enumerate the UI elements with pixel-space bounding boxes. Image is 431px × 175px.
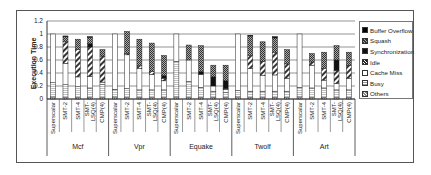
bar-segment-busy	[112, 89, 117, 97]
bar-segment-buffer-overflow	[63, 36, 68, 37]
bar-segment-buffer-overflow	[272, 37, 277, 38]
x-config-label: SMT-4	[136, 101, 142, 119]
bar-segment-cache-miss	[186, 60, 191, 81]
bar-segment-synchronization	[88, 44, 93, 47]
bar-segment-cache-miss	[346, 78, 351, 90]
bar-segment-busy	[285, 91, 290, 98]
x-config-label: Superscalar	[297, 102, 303, 134]
legend-label: Squash	[370, 37, 391, 44]
y-tick-label: 1	[39, 30, 43, 37]
x-config-label: LSQ(4)	[90, 102, 96, 121]
x-config-label: SMT-4	[75, 101, 81, 119]
x-config-label: LSQ(4)	[275, 102, 281, 121]
x-config-label: Superscalar	[173, 102, 179, 134]
x-config-label: Superscalar	[112, 102, 118, 134]
bar-segment-cache-miss	[334, 83, 339, 90]
bar-segment-synchronization	[211, 77, 216, 86]
bar-segment-idle	[272, 52, 277, 75]
bar-segment-busy	[199, 87, 204, 97]
bars	[51, 31, 352, 99]
bar-segment-busy	[137, 90, 142, 98]
bar-segment-cache-miss	[248, 68, 253, 91]
x-config-label: SMT-4	[198, 101, 204, 119]
legend-label: Others	[370, 90, 389, 97]
bar-segment-busy	[334, 90, 339, 98]
bar-segment-busy	[235, 91, 240, 98]
x-config-label: CMP(4)	[284, 102, 290, 123]
x-config-label: CMP(4)	[223, 102, 229, 123]
x-config-label: LSQ(4)	[213, 102, 219, 121]
bar-segment-idle	[162, 78, 167, 81]
bar-segment-cache-miss	[125, 55, 130, 89]
legend-swatch-icon	[362, 70, 368, 76]
bar-segment-idle	[100, 56, 105, 82]
x-config-label: Superscalar	[235, 102, 241, 134]
y-tick-label: 1.2	[34, 17, 43, 24]
bar-segment-squash	[162, 55, 167, 75]
bar-segment-squash	[137, 39, 142, 66]
y-tick-label: 0.4	[34, 69, 43, 76]
x-group-label: Art	[320, 143, 329, 150]
bar-segment-cache-miss	[211, 86, 216, 91]
y-tick-label: 0.6	[34, 56, 43, 63]
x-config-label: CMP(4)	[346, 102, 352, 123]
x-config-label: SMT-4	[321, 101, 327, 119]
legend-swatch-icon	[362, 38, 368, 44]
bar-segment-busy	[51, 83, 56, 97]
bar-segment-idle	[322, 68, 327, 80]
bar-segment-buffer-overflow	[88, 37, 93, 38]
bar-segment-squash	[272, 38, 277, 52]
bar-segment-busy	[88, 88, 93, 98]
bar-segment-cache-miss	[309, 65, 314, 88]
x-config-label: LSQ(4)	[337, 102, 343, 121]
y-tick-label: 0.8	[34, 43, 43, 50]
bar-segment-busy	[248, 91, 253, 98]
bar-segment-cache-miss	[235, 34, 240, 91]
bar-segment-squash	[149, 43, 154, 72]
bar-segment-idle	[75, 50, 80, 77]
bar-segment-cache-miss	[297, 34, 302, 87]
x-config-label: SMT-2	[186, 101, 192, 119]
bar-segment-synchronization	[199, 72, 204, 75]
bar-segment-idle	[334, 70, 339, 83]
bar-segment-cache-miss	[174, 34, 179, 61]
x-config-label: SMT-2	[309, 101, 315, 119]
bar-segment-squash	[223, 65, 228, 81]
bar-segment-cache-miss	[100, 82, 105, 85]
bar-segment-squash	[199, 46, 204, 72]
legend-item-synchronization: Synchronization	[362, 46, 410, 57]
bar-segment-busy	[125, 89, 130, 98]
bar-segment-idle	[346, 65, 351, 78]
x-config-label: LSQ(4)	[152, 102, 158, 121]
legend-item-busy: Busy	[362, 78, 410, 89]
bar-segment-idle	[88, 47, 93, 76]
bar-segment-idle	[309, 62, 314, 65]
bar-segment-squash	[186, 45, 191, 60]
bar-segment-cache-miss	[223, 89, 228, 92]
legend-swatch-icon	[362, 80, 368, 86]
x-config-label: SMT-2	[247, 101, 253, 119]
bar-segment-busy	[309, 88, 314, 98]
bar-segment-squash	[309, 54, 314, 62]
bar-segment-busy	[223, 93, 228, 98]
bar-segment-cache-miss	[162, 81, 167, 90]
bar-segment-squash	[100, 50, 105, 57]
legend-label: Buffer Overflow	[370, 27, 413, 34]
bar-segment-idle	[63, 42, 68, 63]
bar-segment-cache-miss	[149, 74, 154, 90]
bar-segment-cache-miss	[51, 34, 56, 83]
bar-segment-busy	[211, 91, 216, 98]
legend-item-idle: Idle	[362, 57, 410, 68]
bar-segment-cache-miss	[63, 63, 68, 84]
bar-segment-buffer-overflow	[248, 35, 253, 36]
x-config-label: SMT-2	[124, 101, 130, 119]
x-config-label: CMP(4)	[99, 102, 105, 123]
bar-segment-idle	[260, 61, 265, 75]
bar-segment-idle	[285, 64, 290, 78]
bar-segment-cache-miss	[272, 75, 277, 91]
bar-segment-squash	[334, 46, 339, 60]
bar-segment-cache-miss	[88, 76, 93, 88]
bar-segment-cache-miss	[112, 34, 117, 89]
legend-label: Busy	[370, 80, 384, 87]
bar-segment-busy	[162, 90, 167, 98]
